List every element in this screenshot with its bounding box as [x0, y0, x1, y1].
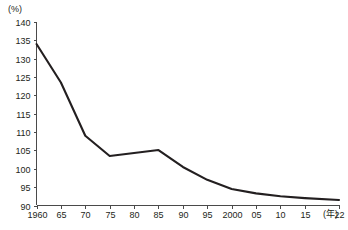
x-tick-label: 90 [178, 210, 188, 220]
x-tick-label: 95 [202, 210, 212, 220]
y-tick-label: 140 [15, 18, 30, 28]
y-tick-label: 115 [16, 110, 30, 120]
x-tick-label: 1960 [27, 210, 47, 220]
x-tick-label: 65 [56, 210, 66, 220]
x-axis-tick-labels: 196065707580859095200005101522 [27, 210, 344, 220]
x-tick-label: 85 [153, 210, 163, 220]
y-tick-label: 125 [15, 73, 30, 83]
x-tick-label: 80 [129, 210, 139, 220]
x-tick-label: 70 [80, 210, 90, 220]
y-axis-tick-labels: 9095100105110115120125130135140 [15, 18, 30, 212]
y-tick-label: 100 [15, 165, 30, 175]
data-series-line [37, 44, 340, 200]
x-tick-label: 75 [105, 210, 115, 220]
x-tick-label: 2000 [222, 210, 242, 220]
x-tick-label: 15 [300, 210, 310, 220]
y-tick-label: 95 [20, 183, 30, 193]
y-tick-label: 110 [16, 128, 30, 138]
y-axis-unit-label: (%) [8, 4, 22, 14]
x-tick-label: 05 [251, 210, 261, 220]
x-axis-unit-label: (年) [323, 208, 338, 219]
y-tick-label: 130 [15, 55, 30, 65]
y-tick-label: 105 [15, 146, 30, 156]
y-tick-label: 135 [15, 36, 30, 46]
x-tick-label: 10 [275, 210, 285, 220]
y-tick-label: 120 [15, 91, 30, 101]
chart-plot-area: 9095100105110115120125130135140 19606570… [0, 0, 348, 230]
line-chart: 9095100105110115120125130135140 19606570… [0, 0, 348, 230]
